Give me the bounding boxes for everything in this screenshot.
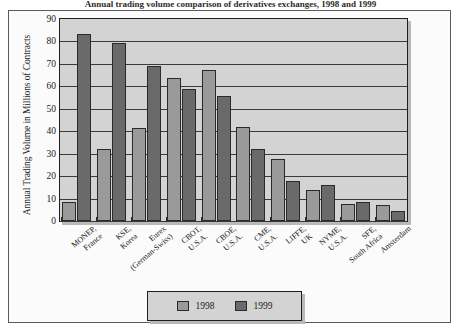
- gridline: [60, 86, 407, 87]
- y-axis-tick-label: 40: [34, 126, 56, 136]
- gridline: [60, 221, 407, 222]
- y-axis-tick-labels: 9080706050403020100: [33, 18, 56, 222]
- y-axis-tick-label: 80: [34, 36, 56, 46]
- gridline: [60, 109, 407, 110]
- gridline: [60, 176, 407, 177]
- y-axis-tick-label: 70: [34, 59, 56, 69]
- y-axis-tick-label: 0: [34, 216, 56, 226]
- y-axis-tick-label: 50: [34, 104, 56, 114]
- y-axis-tick-label: 60: [34, 81, 56, 91]
- y-axis-tick-label: 30: [34, 149, 56, 159]
- chart-legend: 19981999: [147, 291, 302, 321]
- gridline: [60, 64, 407, 65]
- legend-label-1999: 1999: [254, 301, 273, 311]
- legend-item-1999: 1999: [235, 301, 273, 311]
- y-axis-tick-label: 90: [34, 14, 56, 24]
- legend-label-1998: 1998: [196, 301, 215, 311]
- gridline: [60, 131, 407, 132]
- legend-swatch-1998: [177, 301, 189, 311]
- plot-area: [59, 18, 408, 222]
- chart-figure: Annual trading volume comparison of deri…: [0, 0, 461, 334]
- gridline: [60, 154, 407, 155]
- gridline: [60, 41, 407, 42]
- y-axis-tick-label: 20: [34, 171, 56, 181]
- legend-item-1998: 1998: [177, 301, 215, 311]
- y-axis-tick-label: 10: [34, 194, 56, 204]
- gridline: [60, 199, 407, 200]
- chart-title: Annual trading volume comparison of deri…: [0, 0, 461, 9]
- legend-swatch-1999: [235, 301, 247, 311]
